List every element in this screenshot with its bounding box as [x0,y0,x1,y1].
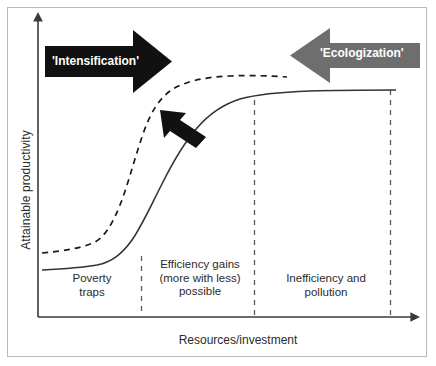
x-axis-label: Resources/investment [138,333,338,347]
region-label-efficiency-gains: Efficiency gains (more with less) possib… [146,258,254,299]
region-label-inefficiency-pollution: Inefficiency and pollution [262,272,390,299]
intensification-arrow-label: 'Intensification' [52,54,139,68]
dashed-curve [42,76,287,253]
region-label-poverty-traps: Poverty traps [44,272,140,299]
chart-figure: Attainable productivity Resources/invest… [0,0,436,366]
ecologization-arrow-label: 'Ecologization' [320,46,404,60]
shift-arrow [160,110,206,148]
solid-curve [42,90,396,270]
y-axis-label: Attainable productivity [19,115,33,265]
